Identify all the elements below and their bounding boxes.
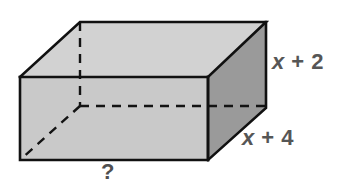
label-height-operator: + — [285, 49, 312, 74]
front-face — [20, 77, 208, 160]
label-height-constant: 2 — [311, 49, 324, 74]
prism-drawing — [0, 0, 340, 179]
label-height-variable: x — [272, 49, 285, 74]
label-height: x + 2 — [272, 51, 324, 73]
label-depth-constant: 4 — [281, 125, 294, 150]
label-depth-operator: + — [255, 125, 282, 150]
label-depth-variable: x — [242, 125, 255, 150]
label-width: ? — [101, 161, 115, 179]
label-depth: x + 4 — [242, 127, 294, 149]
prism-figure: x + 2 x + 4 ? — [0, 0, 340, 179]
